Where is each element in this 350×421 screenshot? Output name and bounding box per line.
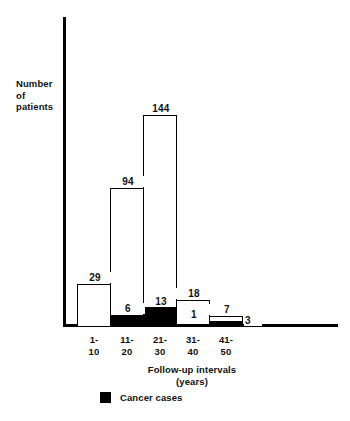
cancer-baseline-strip-right (210, 321, 243, 326)
legend-swatch-cancer-cases (100, 392, 111, 403)
value-label-patients-1-10: 29 (77, 272, 113, 283)
cancer-baseline-strip (111, 321, 176, 326)
x-tick-41-50-line-2: 50 (209, 346, 243, 358)
x-axis-title-unit: (years) (117, 376, 267, 388)
x-tick-31-40-line-1: 31- (176, 334, 210, 346)
bar-31-40-cancer-segment (177, 324, 209, 326)
x-tick-41-50: 41- 50 (209, 334, 243, 358)
x-tick-21-30-line-1: 21- (143, 334, 177, 346)
bar-21-30 (143, 115, 177, 326)
value-label-patients-31-40: 18 (176, 288, 212, 299)
value-label-cancer-41-50: 3 (244, 315, 262, 326)
x-axis-title-main: Follow-up intervals (117, 364, 267, 376)
value-label-patients-21-30: 144 (143, 103, 179, 114)
value-label-cancer-31-40: 1 (177, 309, 211, 320)
x-tick-31-40-line-2: 40 (176, 346, 210, 358)
x-tick-31-40: 31- 40 (176, 334, 210, 358)
x-tick-21-30-line-2: 30 (143, 346, 177, 358)
value-label-cancer-21-30: 13 (144, 296, 178, 307)
bar-1-10 (77, 284, 111, 326)
bar-chart-figure: Number of patients 29 94 144 18 7 6 (0, 0, 350, 421)
value-label-cancer-11-20: 6 (111, 303, 145, 314)
x-tick-11-20-line-2: 20 (110, 346, 144, 358)
value-label-patients-41-50: 7 (209, 304, 245, 315)
chart-legend: Cancer cases (100, 392, 182, 403)
x-tick-1-10: 1- 10 (77, 334, 111, 358)
legend-label-cancer-cases: Cancer cases (120, 392, 182, 403)
x-axis-title: Follow-up intervals (years) (117, 364, 267, 388)
value-label-patients-11-20: 94 (110, 176, 146, 187)
x-tick-11-20: 11- 20 (110, 334, 144, 358)
x-tick-21-30: 21- 30 (143, 334, 177, 358)
x-tick-41-50-line-1: 41- (209, 334, 243, 346)
x-tick-11-20-line-1: 11- (110, 334, 144, 346)
x-tick-1-10-line-2: 10 (77, 346, 111, 358)
x-tick-1-10-line-1: 1- (77, 334, 111, 346)
